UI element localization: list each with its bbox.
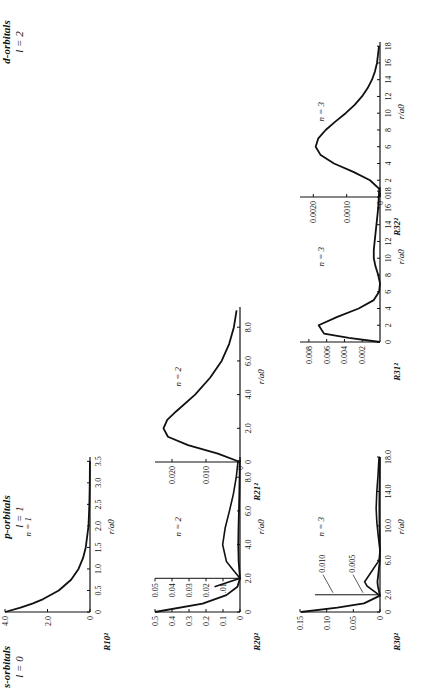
svg-text:0.005: 0.005 xyxy=(348,555,357,573)
svg-text:8.0: 8.0 xyxy=(244,322,253,332)
svg-text:0.1: 0.1 xyxy=(219,616,228,626)
svg-text:R32²: R32² xyxy=(392,218,402,237)
svg-text:n = 2: n = 2 xyxy=(173,516,183,536)
svg-text:0.0010: 0.0010 xyxy=(343,201,352,223)
svg-text:0.10: 0.10 xyxy=(323,616,332,630)
svg-text:2.0: 2.0 xyxy=(244,573,253,583)
svg-text:0.002: 0.002 xyxy=(358,346,367,364)
svg-text:n = 2: n = 2 xyxy=(173,366,183,386)
svg-text:2.5: 2.5 xyxy=(94,499,103,509)
svg-text:3.5: 3.5 xyxy=(94,456,103,466)
svg-text:r/a0: r/a0 xyxy=(256,369,266,385)
svg-text:1.0: 1.0 xyxy=(94,564,103,574)
svg-text:0.02: 0.02 xyxy=(202,583,211,597)
svg-text:4.0: 4.0 xyxy=(244,390,253,400)
svg-text:0: 0 xyxy=(384,610,393,614)
svg-text:0.004: 0.004 xyxy=(340,346,349,364)
svg-text:2: 2 xyxy=(384,178,393,182)
svg-text:4.0: 4.0 xyxy=(1,616,10,626)
svg-text:0.008: 0.008 xyxy=(305,346,314,364)
chart-R30: 02.06.010.014.018.000.050.100.150.0100.0… xyxy=(295,407,432,657)
svg-text:0: 0 xyxy=(94,610,103,614)
svg-text:0.006: 0.006 xyxy=(323,346,332,364)
svg-text:0.04: 0.04 xyxy=(168,583,177,597)
svg-text:n = 3: n = 3 xyxy=(316,516,326,536)
svg-text:R10²: R10² xyxy=(102,633,112,652)
svg-text:0: 0 xyxy=(376,201,385,205)
svg-text:12: 12 xyxy=(384,92,393,100)
svg-text:0.0020: 0.0020 xyxy=(309,201,318,223)
svg-text:0: 0 xyxy=(86,616,95,620)
svg-text:0.05: 0.05 xyxy=(151,583,160,597)
svg-text:10: 10 xyxy=(384,254,393,262)
svg-text:2.0: 2.0 xyxy=(44,616,53,626)
svg-text:2.0: 2.0 xyxy=(384,590,393,600)
svg-text:0: 0 xyxy=(384,340,393,344)
svg-text:0: 0 xyxy=(376,616,385,620)
svg-text:0.05: 0.05 xyxy=(349,616,358,630)
svg-text:R30²: R30² xyxy=(392,633,402,652)
svg-text:0.3: 0.3 xyxy=(185,616,194,626)
svg-text:0: 0 xyxy=(236,466,245,470)
chart-R32: 02468101214161800.00100.0020n = 3r/a0R32… xyxy=(295,0,432,242)
svg-text:4.0: 4.0 xyxy=(244,540,253,550)
svg-text:n = 3: n = 3 xyxy=(316,246,326,266)
svg-text:n = 1: n = 1 xyxy=(23,517,33,537)
svg-text:r/a0: r/a0 xyxy=(106,519,116,535)
svg-text:4: 4 xyxy=(384,306,393,310)
svg-text:14.0: 14.0 xyxy=(384,484,393,498)
svg-text:0: 0 xyxy=(244,610,253,614)
svg-text:0: 0 xyxy=(384,195,393,199)
svg-text:0: 0 xyxy=(244,460,253,464)
chart-R10: 00.51.01.52.02.53.03.502.04.0n = 1r/a0R1… xyxy=(0,407,160,657)
svg-text:n = 3: n = 3 xyxy=(316,101,326,121)
svg-text:6: 6 xyxy=(384,290,393,294)
svg-text:0.010: 0.010 xyxy=(202,466,211,484)
svg-text:0.020: 0.020 xyxy=(168,466,177,484)
svg-text:R20²: R20² xyxy=(252,633,262,652)
svg-text:0.5: 0.5 xyxy=(151,616,160,626)
svg-text:3.0: 3.0 xyxy=(94,478,103,488)
svg-text:10: 10 xyxy=(384,109,393,117)
chart-R21: 02.04.06.08.000.0100.020n = 2r/a0R21² xyxy=(150,257,310,507)
svg-text:r/a0: r/a0 xyxy=(396,104,406,120)
svg-text:6.0: 6.0 xyxy=(244,506,253,516)
svg-text:R31²: R31² xyxy=(392,363,402,382)
svg-text:0.15: 0.15 xyxy=(296,616,305,630)
svg-text:r/a0: r/a0 xyxy=(396,249,406,265)
svg-text:2: 2 xyxy=(384,323,393,327)
svg-text:18: 18 xyxy=(384,42,393,50)
svg-text:10.0: 10.0 xyxy=(384,519,393,533)
svg-text:2.0: 2.0 xyxy=(244,423,253,433)
svg-text:6.0: 6.0 xyxy=(244,356,253,366)
svg-text:0.5: 0.5 xyxy=(94,585,103,595)
svg-text:r/a0: r/a0 xyxy=(256,519,266,535)
svg-text:18.0: 18.0 xyxy=(384,450,393,464)
d-orbitals-label: d-orbitals l = 2 xyxy=(0,7,25,77)
svg-text:16: 16 xyxy=(384,59,393,67)
svg-text:1.5: 1.5 xyxy=(94,542,103,552)
svg-text:0.2: 0.2 xyxy=(202,616,211,626)
svg-text:r/a0: r/a0 xyxy=(396,519,406,535)
svg-text:8: 8 xyxy=(384,273,393,277)
svg-text:0.03: 0.03 xyxy=(185,583,194,597)
svg-text:6: 6 xyxy=(384,145,393,149)
svg-text:2.0: 2.0 xyxy=(94,521,103,531)
svg-text:4: 4 xyxy=(384,161,393,165)
svg-text:0.4: 0.4 xyxy=(168,616,177,626)
svg-text:0: 0 xyxy=(236,616,245,620)
svg-text:14: 14 xyxy=(384,76,393,84)
svg-text:R21²: R21² xyxy=(252,483,262,502)
svg-text:0.010: 0.010 xyxy=(318,555,327,573)
svg-text:8: 8 xyxy=(384,128,393,132)
svg-text:6.0: 6.0 xyxy=(384,555,393,565)
rotated-figure: s-orbitals l = 0 p-orbitals l = 1 d-orbi… xyxy=(0,0,432,697)
